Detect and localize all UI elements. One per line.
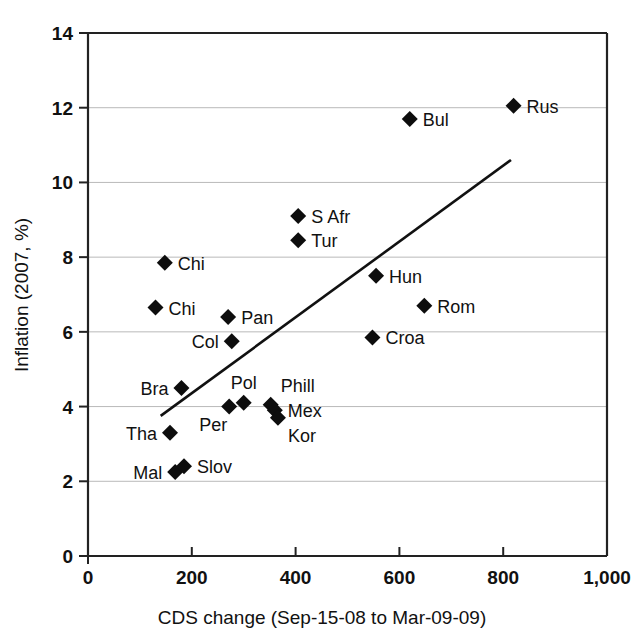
data-point-label: Croa — [385, 328, 425, 348]
y-tick-label: 0 — [62, 546, 73, 567]
data-marker — [173, 380, 189, 396]
x-tick-label: 0 — [83, 567, 94, 588]
data-marker — [224, 333, 240, 349]
data-point-label: Mal — [133, 463, 162, 483]
data-point-label: Pol — [231, 373, 257, 393]
y-tick-label: 6 — [62, 322, 73, 343]
x-tick-label: 1,000 — [583, 567, 631, 588]
data-marker — [220, 309, 236, 325]
data-point-labels-group: ChiChiPanColBraThaMalSlovPerPolPhillMexK… — [126, 97, 559, 483]
y-axis-title: Inflation (2007, %) — [11, 218, 32, 372]
data-point-label: Rus — [527, 97, 559, 117]
y-tick-label: 2 — [62, 471, 73, 492]
data-point-label: Bul — [423, 110, 449, 130]
data-point-label: Kor — [288, 426, 316, 446]
data-point-label: Bra — [140, 379, 169, 399]
data-point-label: Hun — [389, 267, 422, 287]
x-tick-labels-group: 02004006008001,000 — [83, 567, 631, 588]
chart-canvas: ChiChiPanColBraThaMalSlovPerPolPhillMexK… — [0, 0, 644, 640]
y-tick-labels-group: 02468101214 — [52, 23, 74, 567]
data-marker — [147, 300, 163, 316]
data-point-label: Mex — [288, 401, 322, 421]
data-marker — [368, 268, 384, 284]
data-marker — [290, 208, 306, 224]
data-marker — [402, 111, 418, 127]
x-tick-label: 200 — [176, 567, 208, 588]
y-tick-marks-group — [79, 33, 88, 556]
data-point-label: Chi — [178, 254, 205, 274]
data-point-label: Per — [199, 415, 227, 435]
data-marker — [221, 399, 237, 415]
x-tick-label: 400 — [280, 567, 312, 588]
data-point-label: Slov — [197, 457, 232, 477]
y-tick-label: 12 — [52, 98, 73, 119]
data-point-label: Col — [192, 332, 219, 352]
data-point-label: Tur — [311, 231, 337, 251]
data-point-label: Tha — [126, 424, 158, 444]
data-point-label: Chi — [168, 299, 195, 319]
data-marker — [416, 298, 432, 314]
data-point-label: Phill — [281, 376, 315, 396]
data-point-label: S Afr — [311, 207, 350, 227]
trend-line — [161, 160, 511, 416]
data-marker — [506, 98, 522, 114]
x-tick-label: 800 — [487, 567, 519, 588]
trend-line-group — [161, 160, 511, 416]
data-marker — [236, 395, 252, 411]
y-tick-label: 10 — [52, 172, 73, 193]
scatter-chart: ChiChiPanColBraThaMalSlovPerPolPhillMexK… — [0, 0, 644, 640]
data-point-label: Rom — [437, 297, 475, 317]
y-tick-label: 4 — [62, 397, 73, 418]
y-tick-label: 14 — [52, 23, 74, 44]
y-tick-label: 8 — [62, 247, 73, 268]
data-marker — [162, 425, 178, 441]
x-tick-label: 600 — [384, 567, 416, 588]
data-point-label: Pan — [241, 308, 273, 328]
data-marker — [290, 232, 306, 248]
x-axis-title: CDS change (Sep-15-08 to Mar-09-09) — [158, 607, 486, 628]
